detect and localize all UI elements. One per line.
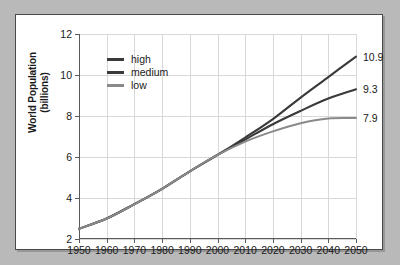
series-line-low bbox=[79, 118, 356, 229]
x-tick-label-1980: 1980 bbox=[150, 244, 173, 256]
y-axis-title: World Population (billions) bbox=[27, 23, 50, 163]
y-axis-title-line2: (billions) bbox=[38, 72, 49, 113]
x-tick-1980 bbox=[162, 239, 163, 243]
x-tick-2020 bbox=[273, 239, 274, 243]
x-tick-2030 bbox=[301, 239, 302, 243]
x-tick-2010 bbox=[245, 239, 246, 243]
x-tick-label-2040: 2040 bbox=[317, 244, 340, 256]
x-tick-1950 bbox=[79, 239, 80, 243]
legend-swatch-low bbox=[107, 84, 124, 87]
x-tick-label-2020: 2020 bbox=[261, 244, 284, 256]
x-tick-label-1970: 1970 bbox=[123, 244, 146, 256]
end-label-low: 7.9 bbox=[363, 112, 378, 124]
x-tick-label-2030: 2030 bbox=[289, 244, 312, 256]
y-tick-label-12: 12 bbox=[60, 28, 72, 40]
x-tick-label-1960: 1960 bbox=[95, 244, 118, 256]
legend-item-high[interactable]: high bbox=[107, 53, 168, 65]
x-tick-label-1950: 1950 bbox=[67, 244, 90, 256]
y-tick-label-6: 6 bbox=[66, 151, 72, 163]
chart-card: World Population (billions) 24681012 195… bbox=[15, 14, 383, 250]
x-tick-1960 bbox=[107, 239, 108, 243]
legend-label-low: low bbox=[131, 79, 147, 91]
x-tick-label-1990: 1990 bbox=[178, 244, 201, 256]
gridline-x-2050 bbox=[356, 34, 357, 239]
population-projection-chart: World Population (billions) 24681012 195… bbox=[16, 15, 384, 251]
plot-area: 24681012 1950196019701980199020002010202… bbox=[79, 34, 356, 239]
y-tick-label-4: 4 bbox=[66, 192, 72, 204]
x-tick-1990 bbox=[190, 239, 191, 243]
x-tick-label-2050: 2050 bbox=[344, 244, 367, 256]
x-tick-2000 bbox=[218, 239, 219, 243]
y-tick-label-10: 10 bbox=[60, 69, 72, 81]
y-tick-label-8: 8 bbox=[66, 110, 72, 122]
end-label-high: 10.9 bbox=[363, 51, 383, 63]
legend-label-medium: medium bbox=[131, 66, 168, 78]
x-tick-1970 bbox=[134, 239, 135, 243]
x-tick-2040 bbox=[328, 239, 329, 243]
x-tick-label-2000: 2000 bbox=[206, 244, 229, 256]
legend-item-medium[interactable]: medium bbox=[107, 66, 168, 78]
x-tick-2050 bbox=[356, 239, 357, 243]
x-tick-label-2010: 2010 bbox=[234, 244, 257, 256]
legend-label-high: high bbox=[131, 53, 151, 65]
end-label-medium: 9.3 bbox=[363, 83, 378, 95]
legend-swatch-high bbox=[107, 58, 124, 61]
series-line-medium bbox=[79, 89, 356, 228]
chart-legend: highmediumlow bbox=[107, 53, 168, 92]
legend-swatch-medium bbox=[107, 71, 124, 74]
y-axis-title-line1: World Population bbox=[27, 52, 38, 133]
legend-item-low[interactable]: low bbox=[107, 79, 168, 91]
